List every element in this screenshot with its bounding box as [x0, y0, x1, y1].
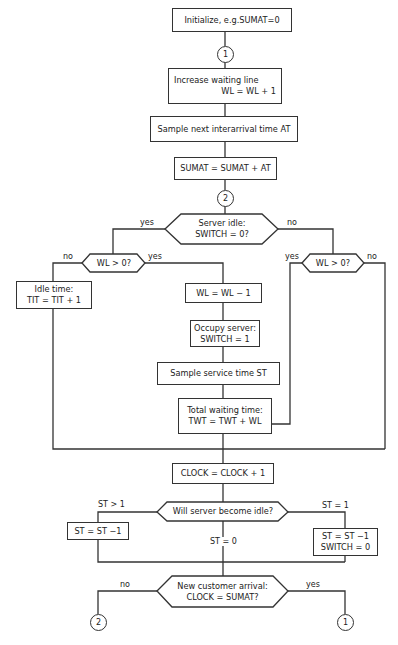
arrival-no-label: no	[120, 580, 130, 589]
st-decrement-left-box: ST = ST −1	[67, 522, 129, 540]
twt-text-2: TWT = TWT + WL	[179, 416, 271, 427]
st-equal-1-label: ST = 1	[322, 501, 349, 510]
clock-increment-box: CLOCK = CLOCK + 1	[172, 463, 274, 484]
twt-text-1: Total waiting time:	[179, 405, 271, 416]
increase-text-2: WL = WL + 1	[174, 86, 276, 97]
idle-time-box: Idle time: TIT = TIT + 1	[16, 281, 92, 309]
connector-2-bottom: 2	[90, 614, 107, 631]
server-idle-text-1: Server idle:	[180, 218, 264, 229]
wl-right-no-label: no	[367, 252, 377, 261]
idle-text-1: Idle time:	[17, 284, 91, 295]
wl-positive-left-decision: WL > 0?	[88, 254, 140, 272]
occupy-text-1: Occupy server:	[191, 323, 259, 334]
st-left-text: ST = ST −1	[68, 526, 128, 537]
new-arrival-text-1: New customer arrival:	[172, 581, 273, 592]
st-right-text-1: ST = ST −1	[314, 531, 377, 542]
st-right-text-2: SWITCH = 0	[314, 542, 377, 553]
sample-at-text: Sample next interarrival time AT	[151, 124, 297, 135]
wl-left-text: WL > 0?	[88, 258, 140, 269]
st-decrement-switch-box: ST = ST −1 SWITCH = 0	[313, 528, 378, 556]
new-customer-arrival-decision: New customer arrival: CLOCK = SUMAT?	[172, 576, 273, 607]
sumat-text: SUMAT = SUMAT + AT	[175, 163, 276, 174]
connector-label: 1	[223, 50, 228, 59]
server-idle-text-2: SWITCH = 0?	[180, 229, 264, 240]
sample-interarrival-box: Sample next interarrival time AT	[150, 116, 298, 142]
increase-waiting-line-box: Increase waiting line WL = WL + 1	[168, 68, 282, 104]
wl-dec-text: WL = WL − 1	[186, 288, 261, 299]
sample-service-time-box: Sample service time ST	[157, 362, 280, 385]
will-idle-text: Will server become idle?	[166, 506, 280, 517]
occupy-text-2: SWITCH = 1	[191, 334, 259, 345]
wl-decrement-box: WL = WL − 1	[185, 283, 262, 303]
connector-1-bottom: 1	[337, 614, 354, 631]
wl-left-yes-label: yes	[148, 252, 162, 261]
connector-label: 1	[343, 618, 348, 627]
connector-label: 2	[223, 194, 228, 203]
clock-text: CLOCK = CLOCK + 1	[173, 468, 273, 479]
connector-1-top: 1	[217, 46, 234, 63]
initialize-box: Initialize, e.g.SUMAT=0	[172, 8, 292, 32]
idle-text-2: TIT = TIT + 1	[17, 295, 91, 306]
initialize-text: Initialize, e.g.SUMAT=0	[173, 15, 291, 26]
st-equal-0-label: ST = 0	[210, 537, 237, 546]
increase-text-1: Increase waiting line	[174, 75, 276, 86]
server-become-idle-decision: Will server become idle?	[166, 502, 280, 521]
sample-st-text: Sample service time ST	[158, 368, 279, 379]
sumat-box: SUMAT = SUMAT + AT	[174, 157, 277, 180]
new-arrival-text-2: CLOCK = SUMAT?	[172, 592, 273, 603]
server-idle-yes-label: yes	[140, 218, 154, 227]
wl-positive-right-decision: WL > 0?	[308, 254, 358, 272]
occupy-server-box: Occupy server: SWITCH = 1	[190, 320, 260, 347]
wl-left-no-label: no	[63, 252, 73, 261]
st-greater-1-label: ST > 1	[98, 500, 125, 509]
wl-right-text: WL > 0?	[308, 258, 358, 269]
connector-label: 2	[96, 618, 101, 627]
total-waiting-time-box: Total waiting time: TWT = TWT + WL	[178, 398, 272, 434]
wl-right-yes-label: yes	[285, 252, 299, 261]
connector-2-mid: 2	[217, 190, 234, 207]
server-idle-decision: Server idle: SWITCH = 0?	[180, 214, 264, 244]
server-idle-no-label: no	[287, 218, 297, 227]
arrival-yes-label: yes	[306, 580, 320, 589]
